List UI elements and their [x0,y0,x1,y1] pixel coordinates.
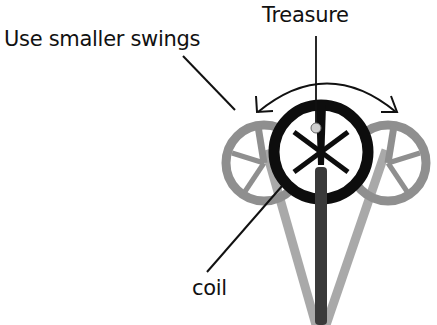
treasure-label: Treasure [262,3,349,27]
treasure-dot [311,123,321,133]
coil-label: coil [192,276,227,300]
detector-shaft [315,167,327,325]
swings-leader-line [183,56,235,110]
swing-instruction-label: Use smaller swings [4,27,200,51]
